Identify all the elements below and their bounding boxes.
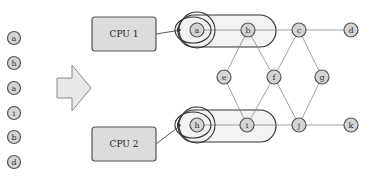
edge-g-j [299, 77, 322, 125]
cpus: CPU 1CPU 2 [92, 17, 181, 161]
cpu-1: CPU 1 [92, 17, 181, 51]
queue-node-label: d [11, 158, 16, 167]
queue-node-label: i [13, 109, 16, 118]
graph-node-a: a [190, 23, 204, 37]
graph-node-j: j [292, 118, 306, 132]
edge-c-f [274, 30, 299, 77]
graph-node-i: i [240, 118, 254, 132]
queue-item: b [8, 131, 21, 144]
graph-node-f: f [267, 70, 281, 84]
node-label: c [297, 26, 302, 35]
queue-node-label: h [11, 59, 16, 68]
graph-node-b: b [241, 23, 255, 37]
node-label: b [245, 26, 250, 35]
queue-item: a [8, 32, 21, 45]
cpu-label: CPU 1 [110, 29, 139, 39]
queue-item: i [8, 107, 21, 120]
cpu-label: CPU 2 [110, 139, 139, 149]
queue-node-label: a [12, 34, 17, 43]
queue-node-label: a [12, 84, 17, 93]
graph-node-d: d [344, 23, 358, 37]
node-label: k [349, 121, 354, 130]
node-label: h [194, 121, 199, 130]
right-arrow-icon [57, 65, 91, 111]
scheduling-diagram: ahaibd CPU 1CPU 2 abcdefghijk [0, 0, 373, 181]
graph-node-e: e [217, 70, 231, 84]
graph-node-h: h [190, 118, 204, 132]
task-queue: ahaibd [8, 32, 21, 169]
graph-node-k: k [344, 118, 358, 132]
queue-item: d [8, 156, 21, 169]
queue-item: a [8, 82, 21, 95]
node-label: a [195, 26, 200, 35]
graph-node-c: c [292, 23, 306, 37]
node-label: g [319, 73, 324, 82]
node-label: i [246, 121, 249, 130]
node-label: e [222, 73, 227, 82]
queue-node-label: b [11, 133, 16, 142]
cpu-2: CPU 2 [92, 123, 181, 162]
edge-c-g [299, 30, 322, 77]
queue-item: h [8, 57, 21, 70]
node-label: j [297, 121, 300, 130]
node-label: d [348, 26, 353, 35]
graph-node-g: g [315, 70, 329, 84]
edge-f-j [274, 77, 299, 125]
cpu-connector [156, 125, 181, 144]
